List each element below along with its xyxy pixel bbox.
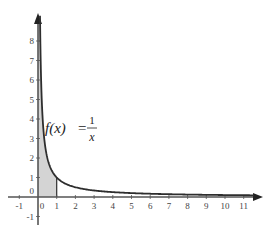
function-label: f(x) = 1 x <box>45 114 97 144</box>
y-tick-label: 6 <box>30 75 35 85</box>
plot-area: -101234567891011-1012345678 f(x) = 1 x <box>0 0 269 241</box>
x-tick-label: 9 <box>204 201 209 211</box>
x-tick-label: 6 <box>148 201 153 211</box>
x-tick-label: 5 <box>129 201 134 211</box>
x-tick-label: 7 <box>167 201 172 211</box>
function-equals: = <box>78 120 86 136</box>
x-tick-label: 1 <box>54 201 59 211</box>
y-tick-label: 2 <box>30 153 35 163</box>
curve-1-over-x <box>40 16 254 196</box>
x-tick-label: 8 <box>185 201 190 211</box>
y-tick-label: 4 <box>30 114 35 124</box>
chart: -101234567891011-1012345678 f(x) = 1 x <box>0 0 269 241</box>
x-tick-label: 3 <box>92 201 97 211</box>
x-tick-label: 11 <box>239 201 248 211</box>
fraction-numerator: 1 <box>89 114 95 126</box>
x-tick-label: -1 <box>16 201 24 211</box>
x-axis-arrow-icon <box>253 193 263 201</box>
x-tick-label: 4 <box>111 201 116 211</box>
y-tick-label: 3 <box>30 134 35 144</box>
y-tick-label: 7 <box>30 56 35 66</box>
x-tick-label: 0 <box>40 201 45 211</box>
fraction-denominator: x <box>88 130 95 144</box>
y-tick-label: 1 <box>30 173 35 183</box>
function-lhs: f(x) <box>45 120 66 137</box>
x-tick-label: 10 <box>221 201 231 211</box>
y-tick-label: 0 <box>30 186 35 196</box>
function-curve <box>40 16 254 196</box>
y-tick-label: -1 <box>27 212 35 222</box>
y-tick-label: 8 <box>30 36 35 46</box>
y-tick-label: 5 <box>30 95 35 105</box>
x-tick-label: 2 <box>73 201 78 211</box>
